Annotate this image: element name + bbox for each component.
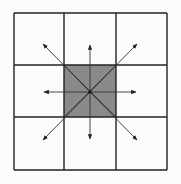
neighborhood-diagram <box>0 0 181 184</box>
center-point <box>88 90 91 93</box>
